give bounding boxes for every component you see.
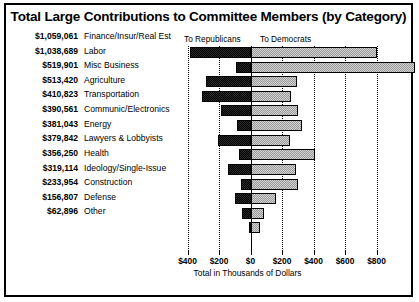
- bar-republicans: [206, 76, 252, 87]
- x-axis-tick: [345, 251, 346, 255]
- bar-democrats: [251, 222, 261, 233]
- x-axis-tick: [377, 251, 378, 255]
- bar-democrats: [251, 179, 298, 190]
- page-title: Total Large Contributions to Committee M…: [6, 9, 411, 24]
- legend-label-democrats: To Democrats: [260, 34, 311, 44]
- bar-republicans: [202, 91, 252, 102]
- gridline: [377, 46, 378, 251]
- bar-democrats: [251, 105, 298, 116]
- x-axis-tick-label: $800: [357, 256, 397, 266]
- bar-republicans: [221, 105, 252, 116]
- bar-democrats: [251, 149, 316, 160]
- bar-democrats: [251, 47, 377, 58]
- bar-republicans: [236, 62, 251, 73]
- x-axis-tick: [188, 251, 189, 255]
- x-axis-tick: [251, 251, 252, 255]
- bar-democrats: [251, 91, 291, 102]
- bar-democrats: [251, 76, 298, 87]
- gridline: [345, 46, 346, 251]
- bar-democrats: [251, 164, 296, 175]
- bar-democrats: [251, 193, 276, 204]
- bar-democrats: [251, 120, 302, 131]
- x-axis-tick: [314, 251, 315, 255]
- bar-republicans: [228, 164, 252, 175]
- category-row: $1,059,061Finance/Insur/Real Est: [6, 29, 174, 44]
- bar-republicans: [237, 120, 251, 131]
- bar-democrats: [251, 135, 291, 146]
- gridline: [188, 46, 189, 251]
- x-axis-tick: [282, 251, 283, 255]
- bar-democrats: [251, 208, 265, 219]
- bar-republicans: [190, 47, 252, 58]
- chart-frame: Total Large Contributions to Committee M…: [4, 3, 413, 297]
- bars-layer: [6, 46, 419, 251]
- bar-republicans: [218, 135, 251, 146]
- bar-republicans: [235, 193, 252, 204]
- category-name: Finance/Insur/Real Est: [84, 29, 171, 44]
- bar-democrats: [251, 62, 416, 73]
- legend-label-republicans: To Republicans: [184, 34, 241, 44]
- x-axis-title: Total in Thousands of Dollars: [6, 268, 419, 278]
- x-axis: Total in Thousands of Dollars $400$200$0…: [6, 251, 419, 295]
- category-amount: $1,059,061: [6, 29, 78, 44]
- x-axis-tick: [219, 251, 220, 255]
- chart-plot-area: To Republicans To Democrats $1,059,061Fi…: [6, 27, 411, 295]
